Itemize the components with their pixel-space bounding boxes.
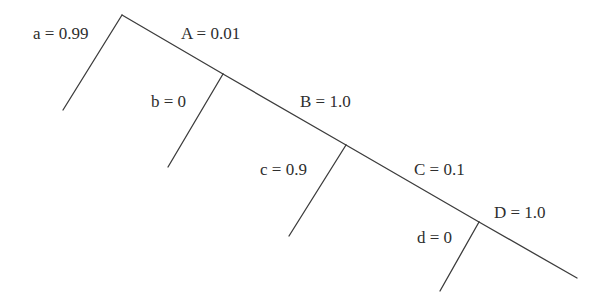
label-B: B = 1.0 <box>300 92 351 111</box>
label-D: D = 1.0 <box>494 203 546 222</box>
edge-branch-b <box>168 74 223 167</box>
tree-diagram: a = 0.99 A = 0.01 b = 0 B = 1.0 c = 0.9 … <box>0 0 604 303</box>
edge-spine-C <box>346 145 479 222</box>
edge-spine-D <box>479 222 577 278</box>
label-c: c = 0.9 <box>260 160 307 179</box>
label-a: a = 0.99 <box>33 24 88 43</box>
label-b: b = 0 <box>151 92 186 111</box>
label-A: A = 0.01 <box>181 24 240 43</box>
label-d: d = 0 <box>417 228 452 247</box>
label-C: C = 0.1 <box>414 160 465 179</box>
edge-branch-c <box>289 145 346 236</box>
